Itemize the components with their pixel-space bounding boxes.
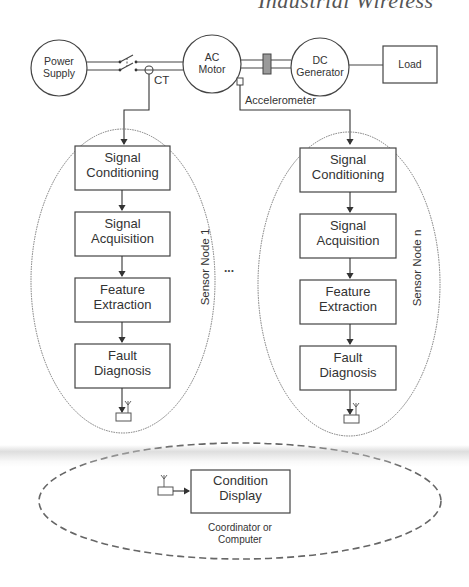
sensor-node-n-label: Sensor Node n [411, 208, 423, 328]
power-supply-label: Power Supply [31, 55, 87, 79]
ac-motor-label: AC Motor [183, 51, 241, 75]
node-1-signal-acquisition: Signal Acquisition [75, 217, 170, 247]
sensor-node-1-label: Sensor Node 1 [199, 207, 211, 327]
ct-label: CT [154, 74, 169, 87]
coordinator-radio-icon [158, 487, 173, 495]
node-1-signal-conditioning: Signal Conditioning [75, 151, 170, 181]
node-n-signal-acquisition: Signal Acquisition [300, 219, 396, 249]
node-1-fault-diagnosis: Fault Diagnosis [75, 349, 170, 379]
more-nodes-ellipsis: ... [224, 262, 234, 276]
coordinator-caption: Coordinator or Computer [180, 522, 300, 545]
page-fold-shadow [0, 445, 469, 467]
dc-generator-label: DC Generator [291, 54, 349, 78]
shaft-coupling [263, 54, 271, 74]
accelerometer-label: Accelerometer [245, 94, 316, 107]
node-n-feature-extraction: Feature Extraction [300, 285, 396, 315]
diagram-canvas: Industrial Wireless [0, 0, 469, 587]
node-1-feature-extraction: Feature Extraction [75, 283, 170, 313]
node-n-radio-icon [344, 415, 359, 423]
node-1-radio-icon [116, 413, 131, 421]
node-n-signal-conditioning: Signal Conditioning [300, 153, 396, 183]
condition-display-label: Condition Display [191, 474, 290, 504]
accelerometer-icon [237, 78, 243, 85]
node-n-fault-diagnosis: Fault Diagnosis [300, 351, 396, 381]
load-label: Load [383, 58, 437, 70]
